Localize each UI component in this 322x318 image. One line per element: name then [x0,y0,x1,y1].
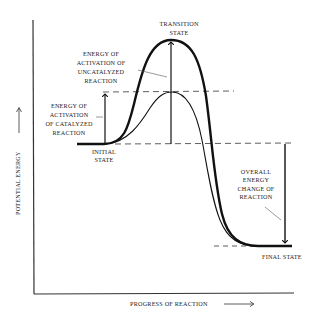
x-axis [34,293,294,294]
svg-text:ACTIVATION OF: ACTIVATION OF [77,59,126,66]
y-axis [33,20,34,294]
svg-text:REACTION: REACTION [85,77,118,84]
svg-text:POTENTIAL ENERGY: POTENTIAL ENERGY [14,151,21,215]
svg-text:INITIAL: INITIAL [92,148,116,155]
catalyzed-curve [106,92,258,246]
svg-text:ENERGY OF: ENERGY OF [83,50,119,57]
svg-text:TRANSITION: TRANSITION [159,20,198,27]
svg-text:STATE: STATE [169,29,188,36]
svg-text:ACTIVATION: ACTIVATION [50,111,89,118]
svg-text:REACTION: REACTION [240,193,273,200]
svg-text:ENERGY: ENERGY [243,176,270,183]
energy-diagram: POTENTIAL ENERGY PROGRESS OF REACTION TR… [0,0,322,318]
y-axis-label: POTENTIAL ENERGY [14,151,21,215]
svg-text:STATE: STATE [94,156,113,163]
overall-leader [265,207,281,220]
transition-state-label: TRANSITION STATE [159,20,198,36]
uncatalyzed-activation-label: ENERGY OF ACTIVATION OF UNCATALYZED REAC… [77,50,126,84]
svg-text:ENERGY OF: ENERGY OF [51,102,87,109]
x-axis-arrow-icon [224,302,254,307]
final-state-label: FINAL STATE [262,253,302,260]
svg-text:OVERALL: OVERALL [241,168,271,175]
initial-state-label: INITIAL STATE [92,148,116,163]
svg-text:REACTION: REACTION [53,129,86,136]
catalyzed-activation-label: ENERGY OF ACTIVATION OF CATALYZED REACTI… [45,102,93,136]
y-axis-arrow-icon [17,108,22,134]
overall-change-label: OVERALL ENERGY CHANGE OF REACTION [237,168,274,200]
svg-text:OF CATALYZED: OF CATALYZED [45,120,93,127]
svg-text:UNCATALYZED: UNCATALYZED [78,68,125,75]
x-axis-label: PROGRESS OF REACTION [130,300,208,307]
initial-level-dashline [115,143,294,144]
svg-text:CHANGE OF: CHANGE OF [237,185,274,192]
